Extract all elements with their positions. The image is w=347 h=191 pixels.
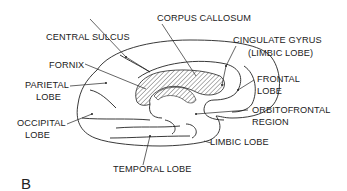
label-fornix: FORNIX — [49, 60, 84, 70]
label-parietal-line2: LOBE — [36, 92, 61, 102]
label-orbitofrontal-line2: REGION — [252, 117, 289, 127]
label-limbic-lobe: LIMBIC LOBE — [210, 137, 269, 147]
label-frontal-line1: FRONTAL — [257, 74, 300, 84]
label-corpus-callosum: CORPUS CALLOSUM — [157, 13, 251, 23]
label-parietal-line1: PARIETAL — [25, 80, 69, 90]
label-occipital-line2: LOBE — [25, 130, 50, 140]
label-occipital-line1: OCCIPITAL — [17, 118, 66, 128]
label-orbitofrontal-line1: ORBITOFRONTAL — [252, 105, 331, 115]
label-frontal-line2: LOBE — [257, 86, 282, 96]
label-temporal-lobe: TEMPORAL LOBE — [113, 164, 192, 174]
label-cingulate-gyrus-line2: (LIMBIC LOBE) — [248, 48, 313, 58]
label-central-sulcus: CENTRAL SULCUS — [46, 32, 130, 42]
brain-medial-diagram: CORPUS CALLOSUM CENTRAL SULCUS CINGULATE… — [0, 0, 347, 191]
panel-label: B — [21, 175, 31, 191]
label-cingulate-gyrus-line1: CINGULATE GYRUS — [233, 35, 322, 45]
